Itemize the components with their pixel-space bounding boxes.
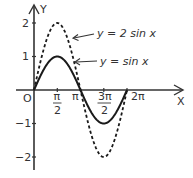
tick-label-pi: π	[72, 90, 79, 103]
y-tick-label-neg1: −1	[15, 117, 31, 130]
tick-label-2pi: 2π	[131, 90, 145, 103]
y-tick-label-1: 1	[22, 50, 29, 63]
annotation-arrows	[73, 34, 97, 65]
sine-graph: y = 2 sin x y = sin x Y X O π 2 π 3π 2 2…	[0, 0, 193, 178]
tick-label-pi-half-num: π	[54, 90, 61, 103]
tick-label-pi-half-den: 2	[54, 104, 61, 117]
tick-label-3pi-half-den: 2	[101, 104, 108, 117]
tick-label-3pi-half-num: 3π	[98, 90, 112, 103]
arrow-sinx	[76, 61, 97, 62]
y-axis-label: Y	[39, 3, 47, 16]
label-sinx: y = sin x	[99, 55, 149, 68]
label-2sinx: y = 2 sin x	[96, 27, 156, 40]
y-tick-label-neg2: −2	[15, 151, 31, 164]
origin-label: O	[23, 92, 32, 105]
x-axis-label: X	[177, 95, 185, 108]
y-tick-label-2: 2	[22, 17, 29, 30]
